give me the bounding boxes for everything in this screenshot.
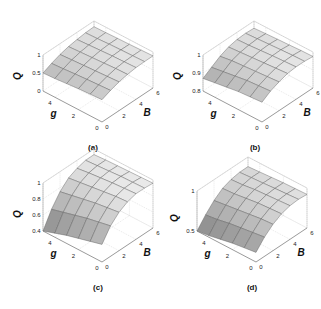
B-tick-label: 6: [156, 90, 160, 96]
z-tick-label: 0: [37, 88, 41, 94]
Q-axis-label: Q: [172, 72, 183, 80]
panel-caption: (c): [93, 283, 103, 292]
g-tick-label: 4: [48, 100, 52, 106]
B-axis-label: B: [143, 247, 150, 258]
g-axis-label: g: [209, 108, 216, 119]
panel-caption: (b): [250, 143, 261, 152]
g-tick-label: 4: [48, 240, 52, 246]
Q-axis-label: Q: [12, 210, 23, 218]
B-tick-label: 0: [105, 264, 109, 270]
B-tick-label: 2: [276, 253, 280, 259]
panel-b: 0.80.910240246gBQ(b): [172, 21, 320, 152]
B-tick-label: 0: [265, 124, 269, 130]
z-tick-label: 0.4: [32, 228, 41, 234]
g-tick-label: 0: [95, 125, 99, 131]
B-tick-label: 2: [282, 113, 286, 119]
B-tick-label: 2: [122, 113, 126, 119]
panel-c: 0.40.60.810240246gBQ(c): [12, 149, 160, 292]
B-tick-label: 6: [316, 90, 320, 96]
z-tick-label: 0.8: [192, 88, 201, 94]
Q-axis-label: Q: [12, 72, 23, 80]
panel-a: 00.510240246gBQ(a): [12, 21, 160, 152]
g-axis-label: g: [49, 248, 56, 259]
g-tick-label: 2: [232, 113, 236, 119]
g-tick-label: 0: [249, 265, 253, 271]
g-tick-label: 4: [208, 100, 212, 106]
g-axis-label: g: [49, 108, 56, 119]
B-tick-label: 2: [122, 253, 126, 259]
z-tick-label: 0.5: [186, 228, 195, 234]
B-axis-label: B: [297, 247, 304, 258]
z-tick-label: 1: [37, 180, 41, 186]
g-axis-label: g: [203, 248, 210, 259]
panel-caption: (d): [247, 283, 258, 292]
B-tick-label: 0: [105, 124, 109, 130]
g-tick-label: 2: [72, 253, 76, 259]
z-tick-label: 0.5: [32, 70, 41, 76]
z-tick-label: 1: [37, 52, 41, 58]
z-tick-label: 1: [191, 188, 195, 194]
z-tick-label: 0.9: [192, 70, 201, 76]
B-tick-label: 0: [259, 264, 263, 270]
g-tick-label: 0: [95, 265, 99, 271]
g-tick-label: 0: [255, 125, 259, 131]
figure: 00.510240246gBQ(a) 0.80.910240246gBQ(b) …: [0, 0, 321, 309]
B-tick-label: 6: [310, 230, 314, 236]
B-axis-label: B: [143, 107, 150, 118]
B-tick-label: 6: [156, 230, 160, 236]
z-tick-label: 0.8: [32, 196, 41, 202]
g-tick-label: 2: [72, 113, 76, 119]
Q-axis-label: Q: [169, 214, 180, 222]
z-tick-label: 1: [197, 52, 201, 58]
panel-d: 0.510240246gBQ(d): [169, 157, 314, 292]
z-tick-label: 0.6: [32, 212, 41, 218]
g-tick-label: 2: [226, 253, 230, 259]
g-tick-label: 4: [202, 240, 206, 246]
B-axis-label: B: [303, 107, 310, 118]
